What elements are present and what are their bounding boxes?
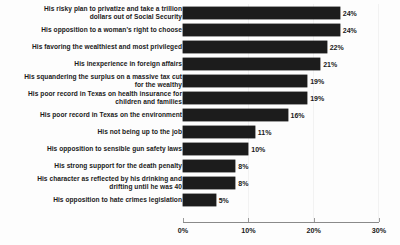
- bar-value-label: 11%: [258, 128, 272, 135]
- bar-row: His opposition to a woman's right to cho…: [0, 21, 400, 38]
- bar-category-label: His strong support for the death penalty: [10, 161, 182, 169]
- bar: [183, 143, 248, 155]
- bar-category-label: His opposition to sensible gun safety la…: [10, 144, 182, 152]
- bar-track: 8%: [183, 160, 379, 172]
- bar-track: 10%: [183, 143, 379, 155]
- bar-rows: His risky plan to privatize and take a t…: [0, 4, 400, 208]
- bar-track: 5%: [183, 194, 379, 206]
- bar: [183, 7, 340, 19]
- bar: [183, 75, 307, 87]
- bar: [183, 41, 327, 53]
- bar-value-label: 19%: [310, 77, 324, 84]
- bar-track: 11%: [183, 126, 379, 138]
- bar-value-label: 8%: [238, 162, 248, 169]
- bar: [183, 177, 235, 189]
- x-axis-tick-label: 10%: [241, 226, 255, 235]
- bar-category-label: His character as reflected by his drinki…: [10, 174, 182, 190]
- bar: [183, 160, 235, 172]
- bar: [183, 126, 255, 138]
- x-axis-tick: [248, 218, 249, 222]
- bar-row: His character as reflected by his drinki…: [0, 174, 400, 191]
- bar-category-label: His not being up to the job: [10, 127, 182, 135]
- bar-row: His favoring the wealthiest and most pri…: [0, 38, 400, 55]
- bar-category-label: His poor record in Texas on health insur…: [10, 89, 182, 105]
- bar-value-label: 24%: [343, 26, 357, 33]
- bar-value-label: 16%: [291, 111, 305, 118]
- bar-value-label: 24%: [343, 9, 357, 16]
- bar-value-label: 8%: [238, 179, 248, 186]
- bar-track: 16%: [183, 109, 379, 121]
- bar-row: His poor record in Texas on the environm…: [0, 106, 400, 123]
- x-axis-tick: [379, 218, 380, 222]
- bar-value-label: 5%: [219, 196, 229, 203]
- bar-category-label: His opposition to hate crimes legislatio…: [10, 195, 182, 203]
- bar-row: His not being up to the job11%: [0, 123, 400, 140]
- bar-category-label: His favoring the wealthiest and most pri…: [10, 42, 182, 50]
- bar-category-label: His inexperience in foreign affairs: [10, 59, 182, 67]
- bar-value-label: 22%: [330, 43, 344, 50]
- bar: [183, 109, 288, 121]
- bar-chart: His risky plan to privatize and take a t…: [0, 0, 400, 245]
- bar-row: His strong support for the death penalty…: [0, 157, 400, 174]
- bar-category-label: His squandering the surplus on a massive…: [10, 72, 182, 88]
- bar-track: 22%: [183, 41, 379, 53]
- x-axis-tick: [314, 218, 315, 222]
- bar-value-label: 19%: [310, 94, 324, 101]
- bar-track: 19%: [183, 75, 379, 87]
- x-axis-line: [183, 222, 379, 223]
- bar-value-label: 21%: [323, 60, 337, 67]
- bar-category-label: His opposition to a woman's right to cho…: [10, 25, 182, 33]
- bar-row: His inexperience in foreign affairs21%: [0, 55, 400, 72]
- bar-value-label: 10%: [251, 145, 265, 152]
- bar-row: His opposition to hate crimes legislatio…: [0, 191, 400, 208]
- bar-track: 24%: [183, 24, 379, 36]
- x-axis-tick-label: 30%: [372, 226, 386, 235]
- x-axis-tick-label: 20%: [306, 226, 320, 235]
- bar-track: 19%: [183, 92, 379, 104]
- bar-track: 21%: [183, 58, 379, 70]
- bar-track: 24%: [183, 7, 379, 19]
- bar: [183, 92, 307, 104]
- bar-row: His poor record in Texas on health insur…: [0, 89, 400, 106]
- bar: [183, 24, 340, 36]
- bar: [183, 194, 216, 206]
- bar-track: 8%: [183, 177, 379, 189]
- bar: [183, 58, 320, 70]
- bar-category-label: His poor record in Texas on the environm…: [10, 110, 182, 118]
- bar-row: His squandering the surplus on a massive…: [0, 72, 400, 89]
- bar-row: His risky plan to privatize and take a t…: [0, 4, 400, 21]
- bar-row: His opposition to sensible gun safety la…: [0, 140, 400, 157]
- x-axis-tick-label: 0%: [178, 226, 188, 235]
- x-axis-tick: [183, 218, 184, 222]
- bar-category-label: His risky plan to privatize and take a t…: [10, 4, 182, 20]
